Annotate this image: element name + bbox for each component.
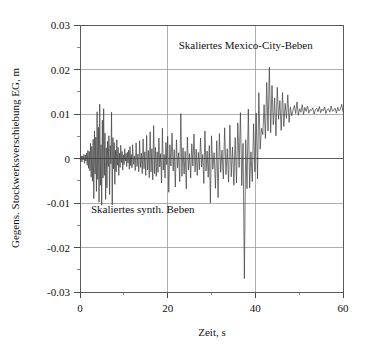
x-tick-label: 60	[338, 302, 350, 314]
y-axis-title: Gegens. Stockwerksverschiebung EG, m	[9, 68, 21, 248]
chart-background	[0, 0, 367, 355]
y-tick-label: -0.01	[47, 197, 70, 209]
x-tick-label: 0	[77, 302, 83, 314]
y-tick-label: -0.02	[47, 242, 70, 254]
relative-storey-displacement-chart: 0.030.020.010-0.01-0.02-0.030204060 Skal…	[0, 0, 367, 355]
y-tick-label: 0	[65, 153, 71, 165]
y-tick-label: 0.03	[51, 19, 71, 31]
mexico-city-label: Skaliertes Mexico-City-Beben	[179, 39, 314, 51]
y-tick-label: 0.01	[51, 108, 70, 120]
y-tick-label: -0.03	[47, 286, 70, 298]
synthetic-label: Skaliertes synth. Beben	[91, 203, 195, 215]
x-tick-label: 40	[250, 302, 262, 314]
chart-figure: 0.030.020.010-0.01-0.02-0.030204060 Skal…	[0, 0, 367, 355]
x-tick-label: 20	[162, 302, 174, 314]
x-axis-title: Zeit, s	[198, 326, 226, 338]
y-tick-label: 0.02	[51, 64, 70, 76]
